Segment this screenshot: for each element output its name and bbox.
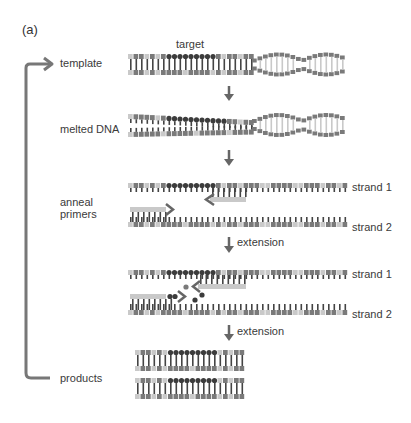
dna-strands — [128, 53, 347, 399]
pcr-diagram — [0, 0, 411, 423]
cycle-loop-arrow — [26, 58, 52, 378]
